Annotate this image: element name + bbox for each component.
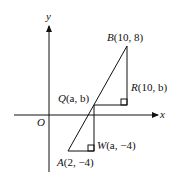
y-axis-label: y (45, 10, 51, 22)
x-axis-label: x (159, 108, 165, 120)
label-B: B(10, 8) (107, 31, 143, 44)
label-W: W(a, −4) (97, 139, 136, 152)
right-angle-R (121, 99, 127, 105)
label-R: R(10, b) (130, 81, 167, 94)
label-Q: Q(a, b) (58, 92, 89, 105)
right-angle-W (88, 145, 94, 151)
origin-label: O (37, 116, 45, 128)
label-A: A(2, −4) (56, 156, 94, 169)
coordinate-diagram: y x O B(10, 8) R(10, b) Q(a, b) W(a, −4)… (0, 0, 180, 178)
